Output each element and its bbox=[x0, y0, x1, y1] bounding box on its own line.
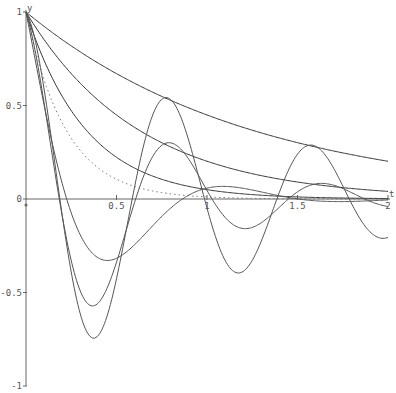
x-tick-label: 0.5 bbox=[108, 201, 124, 211]
x-tick-label: 1.5 bbox=[289, 201, 305, 211]
y-tick-label: -0.5 bbox=[0, 288, 22, 298]
y-tick-label: 1 bbox=[17, 7, 22, 17]
curve-decay-3 bbox=[26, 12, 388, 199]
x-axis-label: t bbox=[389, 189, 394, 199]
y-tick-label: 0 bbox=[17, 194, 22, 204]
curve-decay-dotted bbox=[26, 12, 388, 199]
curve-decay-1 bbox=[26, 12, 388, 161]
curve-decay-2 bbox=[26, 12, 388, 191]
curve-osc-small bbox=[26, 12, 388, 260]
curve-osc-large bbox=[26, 12, 388, 338]
y-tick-label: -1 bbox=[11, 381, 22, 391]
line-chart: 0.511.5210.50-0.5-1 y t bbox=[0, 0, 396, 393]
origin-marker bbox=[25, 204, 28, 207]
curves bbox=[26, 12, 388, 338]
y-axis-label: y bbox=[27, 3, 33, 13]
curve-osc-medium bbox=[26, 12, 388, 306]
y-tick-label: 0.5 bbox=[6, 101, 22, 111]
